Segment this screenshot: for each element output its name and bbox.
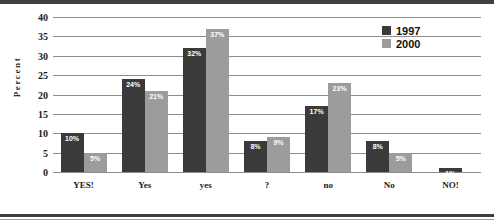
x-axis-labels: YES!Yesyes?noNoNO! xyxy=(53,180,481,190)
bar-value-label: 24% xyxy=(122,80,145,89)
bar-2000-no[interactable]: 23% xyxy=(328,83,351,172)
x-tick-label: Yes xyxy=(114,180,175,190)
y-axis-title: Percent xyxy=(12,32,22,122)
y-tick-label: 15 xyxy=(38,108,48,119)
bar-group: 8%9% xyxy=(236,17,297,172)
y-tick-label: 40 xyxy=(38,12,48,23)
legend-swatch-icon-2000 xyxy=(382,39,391,48)
bar-1997-NO![interactable]: 1% xyxy=(439,168,462,172)
x-tick-label: No xyxy=(359,180,420,190)
chart-legend: 1997 2000 xyxy=(382,24,448,50)
bar-1997-No[interactable]: 8% xyxy=(366,141,389,172)
bar-value-label: 8% xyxy=(366,142,389,151)
bar-value-label: 32% xyxy=(183,49,206,58)
y-tick-label: 20 xyxy=(38,89,48,100)
bar-value-label: 9% xyxy=(267,138,290,147)
bar-value-label: 17% xyxy=(305,107,328,116)
legend-label-2000: 2000 xyxy=(396,38,420,50)
bar-value-label: 5% xyxy=(84,154,107,163)
x-tick-label: ? xyxy=(236,180,297,190)
legend-label-1997: 1997 xyxy=(396,25,420,37)
bar-value-label: 8% xyxy=(244,142,267,151)
top-divider-rule xyxy=(0,0,494,4)
bottom-divider-rule-thin xyxy=(0,219,494,220)
bar-group: 17%23% xyxy=(298,17,359,172)
bar-1997-Yes[interactable]: 24% xyxy=(122,79,145,172)
gridline: 0 xyxy=(53,172,481,173)
y-tick-label: 30 xyxy=(38,50,48,61)
bar-1997-yes[interactable]: 32% xyxy=(183,48,206,172)
y-tick-label: 35 xyxy=(38,31,48,42)
legend-swatch-icon-1997 xyxy=(382,26,391,35)
bar-value-label: 5% xyxy=(389,154,412,163)
bar-group: 24%21% xyxy=(114,17,175,172)
bar-value-label: 23% xyxy=(328,84,351,93)
bar-2000-No[interactable]: 5% xyxy=(389,153,412,172)
y-tick-label: 25 xyxy=(38,70,48,81)
bar-2000-YES![interactable]: 5% xyxy=(84,153,107,172)
bar-group: 32%37% xyxy=(175,17,236,172)
bar-1997-YES![interactable]: 10% xyxy=(61,133,84,172)
bar-chart-figure: Percent 4035302520151050 10%5%24%21%32%3… xyxy=(0,0,494,220)
legend-entry-2000: 2000 xyxy=(382,37,448,50)
legend-entry-1997: 1997 xyxy=(382,24,448,37)
x-tick-label: NO! xyxy=(420,180,481,190)
bar-group: 10%5% xyxy=(53,17,114,172)
bar-1997-no[interactable]: 17% xyxy=(305,106,328,172)
bar-2000-yes[interactable]: 37% xyxy=(206,29,229,172)
bar-1997-?[interactable]: 8% xyxy=(244,141,267,172)
bar-2000-Yes[interactable]: 21% xyxy=(145,91,168,172)
x-tick-label: yes xyxy=(175,180,236,190)
bottom-divider-rule xyxy=(0,214,494,217)
bar-value-label: 1% xyxy=(439,169,462,178)
y-tick-label: 5 xyxy=(43,147,48,158)
y-tick-label: 0 xyxy=(43,167,48,178)
y-tick-label: 10 xyxy=(38,128,48,139)
bar-value-label: 37% xyxy=(206,30,229,39)
x-tick-label: YES! xyxy=(53,180,114,190)
x-tick-label: no xyxy=(298,180,359,190)
bar-value-label: 21% xyxy=(145,92,168,101)
bar-2000-?[interactable]: 9% xyxy=(267,137,290,172)
bar-value-label: 10% xyxy=(61,134,84,143)
